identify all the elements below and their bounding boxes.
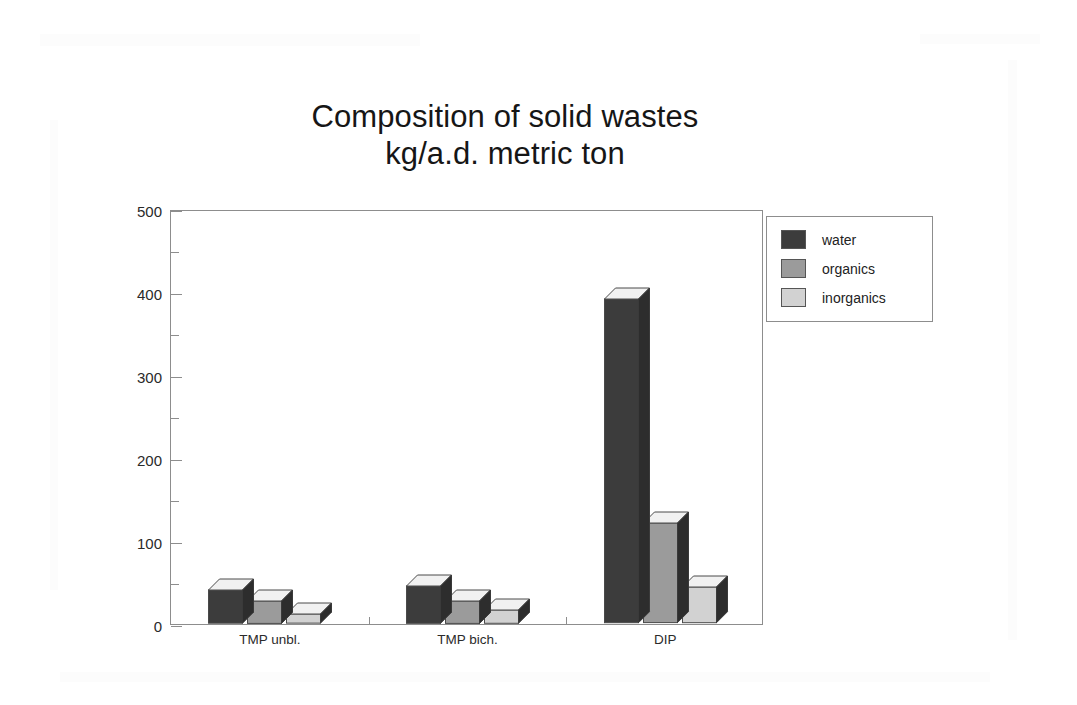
chart-figure: Composition of solid wastes kg/a.d. metr… [0, 0, 1077, 705]
y-axis-minor-tick [171, 584, 179, 585]
y-axis-tick-label: 200 [137, 452, 162, 469]
y-axis-tick [171, 294, 182, 295]
chart-title-line2: kg/a.d. metric ton [0, 135, 1010, 172]
x-axis-category-label: TMP bich. [437, 632, 498, 647]
scan-artifact [40, 34, 420, 46]
y-axis-tick [171, 211, 182, 212]
chart-legend: waterorganicsinorganics [766, 216, 933, 322]
x-axis-category-label: DIP [654, 632, 677, 647]
scan-artifact [920, 34, 1040, 44]
legend-label: organics [822, 261, 875, 277]
y-axis-minor-tick [171, 252, 179, 253]
y-axis-tick-label: 400 [137, 286, 162, 303]
plot-area: 0100200300400500TMP unbl.TMP bich.DIP [170, 210, 763, 625]
chart-title: Composition of solid wastes kg/a.d. metr… [0, 98, 1010, 172]
bar-water-dip [604, 287, 638, 624]
y-axis-minor-tick [171, 501, 179, 502]
scan-artifact [60, 672, 990, 682]
x-axis-category-label: TMP unbl. [239, 632, 300, 647]
legend-swatch-inorganics [781, 288, 806, 307]
y-axis-tick-label: 500 [137, 203, 162, 220]
bar-water-tmpbich [406, 574, 440, 624]
bar-3d-shape [406, 574, 453, 624]
y-axis-tick [171, 626, 182, 627]
x-axis-tick [566, 617, 567, 624]
bar-3d-shape [208, 578, 255, 624]
y-axis-tick [171, 460, 182, 461]
y-axis-tick [171, 543, 182, 544]
bar-water-tmpunbl [208, 578, 242, 624]
legend-item-water[interactable]: water [781, 230, 856, 249]
chart-title-line1: Composition of solid wastes [312, 99, 699, 134]
legend-item-inorganics[interactable]: inorganics [781, 288, 886, 307]
legend-swatch-water [781, 230, 806, 249]
legend-label: inorganics [822, 290, 886, 306]
bar-3d-shape [604, 287, 651, 624]
y-axis-tick-label: 300 [137, 369, 162, 386]
y-axis-minor-tick [171, 335, 179, 336]
scan-artifact [50, 120, 58, 590]
legend-item-organics[interactable]: organics [781, 259, 875, 278]
y-axis-tick-label: 0 [154, 618, 162, 635]
y-axis-tick-label: 100 [137, 535, 162, 552]
y-axis-tick [171, 377, 182, 378]
y-axis-minor-tick [171, 418, 179, 419]
legend-swatch-organics [781, 259, 806, 278]
legend-label: water [822, 232, 856, 248]
x-axis-tick [369, 617, 370, 624]
